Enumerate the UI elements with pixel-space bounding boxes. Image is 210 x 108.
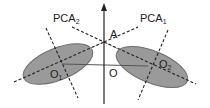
label-origin-o: O (109, 68, 118, 79)
label-pca2: PCA2 (53, 13, 80, 25)
label-point-a: A (110, 29, 117, 40)
pca2-leader (72, 27, 104, 42)
label-center-o1: O1 (50, 69, 62, 81)
label-pca1: PCA1 (140, 13, 167, 25)
left-ellipse-cluster-1 (18, 35, 99, 92)
label-center-o2: O2 (159, 59, 171, 71)
pca-diagram (0, 0, 210, 108)
arrow-up-icon (101, 3, 107, 11)
